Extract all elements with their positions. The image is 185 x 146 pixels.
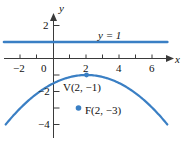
focus-point <box>76 105 82 111</box>
x-axis-label: x <box>175 54 180 65</box>
vertex-label: V(2, −1) <box>63 82 101 93</box>
x-tick-label-6: 6 <box>149 63 155 74</box>
directrix-equation-label: y = 1 <box>98 30 121 41</box>
x-tick-label-2: 2 <box>83 63 89 74</box>
parabola-figure: y x −2 0 2 4 6 2 −2 −4 y = 1 V(2, −1) F(… <box>0 0 185 146</box>
y-tick-label-2: 2 <box>43 20 49 31</box>
x-axis-ticks <box>20 55 152 59</box>
x-tick-label--2: −2 <box>13 63 25 74</box>
y-axis-label: y <box>59 3 64 14</box>
y-axis <box>50 13 60 138</box>
x-tick-label-4: 4 <box>116 63 122 74</box>
figure-canvas <box>0 0 185 146</box>
y-tick-label--2: −2 <box>38 86 50 97</box>
x-tick-label-0: 0 <box>41 63 47 74</box>
focus-label: F(2, −3) <box>85 105 121 116</box>
y-tick-label--4: −4 <box>38 119 50 130</box>
y-axis-ticks <box>54 26 60 125</box>
x-axis <box>4 55 174 63</box>
